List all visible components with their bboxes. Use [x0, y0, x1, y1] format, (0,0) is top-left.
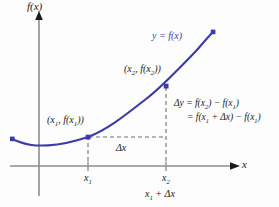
delta-y-line2-lead: = f(x: [187, 112, 206, 122]
curve-start-marker: [10, 137, 15, 142]
x1-plus-delta-x-rest: + Δx: [153, 188, 175, 199]
delta-x-label: Δx: [116, 142, 126, 154]
delta-y-equation-line2: = f(x1 + Δx) − f(x1): [174, 111, 261, 125]
point-marker-lower: [86, 135, 91, 140]
x-axis-arrowhead: [230, 162, 240, 170]
point-label-upper-prefix: (x: [124, 63, 132, 74]
tick-label-x2-sub: 2: [166, 178, 169, 185]
delta-y-line1-mid: ) − f(x: [208, 98, 232, 108]
delta-y-line1-lead: Δy = f(x: [174, 98, 205, 108]
point-label-lower-prefix: (x: [47, 114, 55, 125]
point-marker-upper: [164, 84, 169, 89]
x-axis-label: x: [242, 158, 247, 171]
delta-y-equation-line1: Δy = f(x2) − f(x1): [174, 98, 239, 108]
x1-plus-delta-x-label: x1 + Δx: [145, 188, 175, 202]
function-curve: [12, 32, 213, 146]
tick-label-x2: x2: [162, 172, 170, 186]
y-axis-label: f(x): [27, 0, 42, 13]
curve-equation-label: y = f(x): [152, 30, 182, 42]
delta-y-equation: Δy = f(x2) − f(x1) = f(x1 + Δx) − f(x1): [174, 97, 261, 125]
delta-y-line2-tail: ): [258, 112, 261, 122]
point-label-lower: (x1, f(x1)): [47, 114, 84, 128]
point-label-upper: (x2, f(x2)): [124, 63, 161, 77]
delta-y-line2-mid: + Δx) − f(x: [209, 112, 254, 122]
tick-label-x1-sub: 1: [88, 178, 91, 185]
point-label-upper-suffix: )): [154, 63, 161, 74]
point-label-lower-suffix: )): [77, 114, 84, 125]
point-label-lower-mid: , f(x: [58, 114, 74, 125]
curve-end-marker: [211, 30, 216, 35]
point-label-upper-mid: , f(x: [135, 63, 151, 74]
delta-y-line1-tail: ): [236, 98, 239, 108]
tick-label-x1: x1: [84, 172, 92, 186]
difference-quotient-figure: f(x) x y = f(x) (x2, f(x2)) (x1, f(x1)) …: [0, 0, 279, 207]
